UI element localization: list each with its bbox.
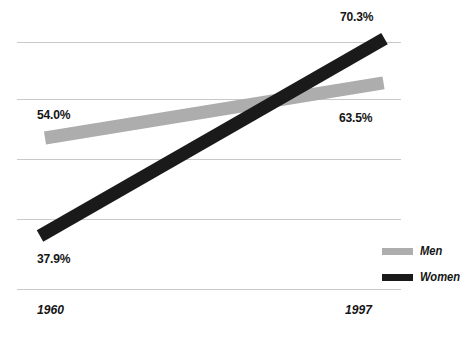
- gridline-3: [17, 159, 401, 160]
- line-chart: 70.3% 54.0% 63.5% 37.9% 1960 1997 Men Wo…: [0, 0, 473, 343]
- legend-item-women[interactable]: Women: [382, 264, 470, 290]
- data-label-women-1960: 37.9%: [37, 251, 70, 266]
- legend-swatch-women-icon: [382, 274, 413, 281]
- gridline-1: [17, 42, 401, 43]
- data-label-men-1997: 63.5%: [339, 110, 372, 125]
- legend-swatch-men-icon: [382, 248, 413, 255]
- x-axis-label-1997: 1997: [345, 302, 372, 317]
- legend-item-men[interactable]: Men: [382, 238, 470, 264]
- x-axis-label-1960: 1960: [37, 302, 64, 317]
- legend-label-women: Women: [420, 270, 460, 284]
- gridline-axis-bottom: [17, 289, 401, 290]
- data-label-women-1997: 70.3%: [340, 9, 373, 24]
- chart-legend: Men Women: [382, 238, 470, 290]
- gridline-2: [17, 99, 401, 100]
- legend-label-men: Men: [420, 244, 442, 258]
- data-label-men-1960: 54.0%: [37, 107, 70, 122]
